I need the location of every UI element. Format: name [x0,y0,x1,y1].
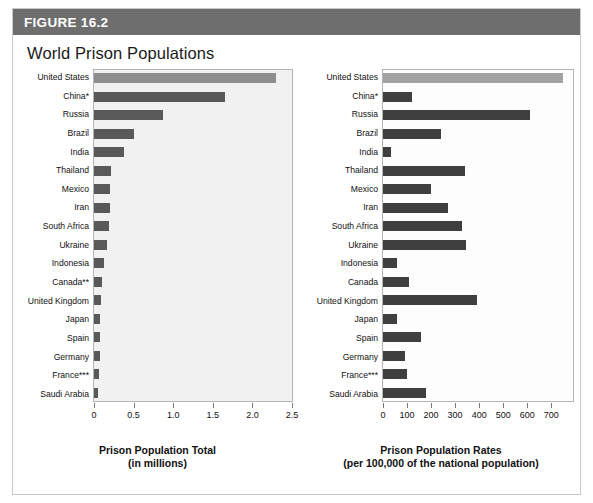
bar-row [383,147,573,157]
bar [94,129,134,139]
axis-tick [551,403,552,408]
bar [383,258,397,268]
category-label: United States [302,72,378,82]
category-label: Japan [13,314,89,324]
bar [94,295,101,305]
left-chart-tick-labels: 00.51.01.52.02.5 [93,410,293,422]
category-label: Brazil [302,128,378,138]
bar [94,332,100,342]
bar-row [383,129,573,139]
category-label: France*** [302,370,378,380]
bar [94,110,163,120]
axis-tick-label: 2.5 [286,410,299,420]
axis-tick-label: 0 [380,410,385,420]
bar-row [94,129,292,139]
bar-row [94,351,292,361]
category-label: Indonesia [302,258,378,268]
axis-tick [94,403,95,408]
bar [94,351,100,361]
figure-number-label: FIGURE 16.2 [24,15,108,30]
bar-row [383,314,573,324]
category-label: France*** [13,370,89,380]
bar-row [383,73,573,83]
bar-row [94,258,292,268]
chart-prison-population-total: United StatesChina*RussiaBrazilIndiaThai… [13,69,302,489]
bar [94,203,110,213]
axis-tick-label: 100 [400,410,415,420]
bar-row [383,277,573,287]
bar-row [383,166,573,176]
axis-tick-label: 700 [544,410,559,420]
bar-row [383,295,573,305]
category-label: Spain [302,333,378,343]
right-chart-tick-labels: 0100200300400500600700 [382,410,574,422]
bar-row [94,92,292,102]
bar [383,92,412,102]
axis-tick-label: 0.5 [127,410,140,420]
category-label: India [302,147,378,157]
bar [383,332,421,342]
axis-tick-label: 200 [424,410,439,420]
bar-row [383,388,573,398]
bar-row [383,369,573,379]
axis-tick [292,403,293,408]
category-label: Spain [13,333,89,343]
category-label: Russia [13,109,89,119]
bar-row [94,295,292,305]
bar [383,240,466,250]
bar [94,240,107,250]
bar [94,166,111,176]
category-label: Ukraine [13,240,89,250]
bar-row [383,184,573,194]
bar-row [94,203,292,213]
right-chart-xlabel-sub: (per 100,000 of the national population) [302,457,580,470]
bar-row [94,147,292,157]
bar [383,388,426,398]
category-label: Mexico [302,184,378,194]
bar [383,166,465,176]
category-label: Iran [13,202,89,212]
axis-tick-label: 2.0 [246,410,259,420]
category-label: South Africa [302,221,378,231]
axis-tick [173,403,174,408]
category-label: Russia [302,109,378,119]
bar [383,351,405,361]
axis-tick-label: 600 [520,410,535,420]
category-label: Mexico [13,184,89,194]
bar [383,110,530,120]
category-label: South Africa [13,221,89,231]
figure-header-bar: FIGURE 16.2 [13,9,580,35]
bar-row [94,73,292,83]
axis-tick [252,403,253,408]
category-label: Germany [13,352,89,362]
bar-row [383,110,573,120]
bar-row [383,221,573,231]
category-label: United States [13,72,89,82]
axis-tick-label: 500 [496,410,511,420]
bar [383,203,448,213]
axis-tick-label: 1.5 [207,410,220,420]
bar-row [94,184,292,194]
category-label: Canada [302,277,378,287]
right-chart-plot-area [382,69,574,402]
category-label: Thailand [13,165,89,175]
axis-tick [383,403,384,408]
bar-row [94,277,292,287]
bar-row [383,240,573,250]
bar [94,92,225,102]
right-chart-category-labels: United StatesChina*RussiaBrazilIndiaThai… [302,69,378,402]
axis-tick [431,403,432,408]
bar [383,295,477,305]
bar-row [94,388,292,398]
category-label: Japan [302,314,378,324]
category-label: United Kingdom [13,296,89,306]
bar-row [94,369,292,379]
axis-tick [213,403,214,408]
category-label: United Kingdom [302,296,378,306]
bar-row [383,92,573,102]
left-chart-xlabel: Prison Population Total [13,444,302,457]
category-label: China* [302,91,378,101]
bar [383,221,462,231]
left-chart-tick-marks [93,403,293,408]
bar [94,277,102,287]
